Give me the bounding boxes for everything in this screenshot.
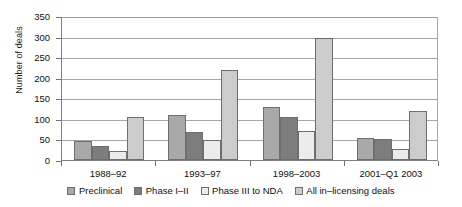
y-tick-label: 200	[4, 74, 50, 84]
legend-item-phase-i-ii[interactable]: Phase I–II	[134, 186, 188, 196]
gridline	[62, 120, 437, 121]
bar-chart: Number of deals 050100150200250300350 19…	[0, 0, 462, 207]
x-tick-label: 2001–Q1 2003	[359, 168, 422, 179]
y-tick-mark	[56, 38, 61, 39]
gridline	[62, 58, 437, 59]
y-tick-label: 50	[4, 135, 50, 145]
y-tick-label: 250	[4, 53, 50, 63]
gridline	[62, 79, 437, 80]
legend-swatch-icon	[201, 187, 209, 195]
legend-label: Phase III to NDA	[212, 186, 283, 196]
legend-swatch-icon	[67, 187, 75, 195]
bar-phase-i-ii-1998-2003	[280, 117, 298, 160]
bar-all-in-licensing-deals-1988-92	[127, 117, 145, 160]
legend-label: Preclinical	[79, 186, 122, 196]
gridline	[62, 99, 437, 100]
bar-phase-i-ii-2001-Q1-2003	[374, 139, 392, 160]
bar-all-in-licensing-deals-1998-2003	[315, 38, 333, 160]
x-tick-mark	[61, 161, 62, 166]
legend-item-all-in-licensing-deals[interactable]: All in–licensing deals	[295, 186, 395, 196]
y-tick-label: 300	[4, 33, 50, 43]
x-tick-label: 1988–92	[90, 168, 127, 179]
bar-all-in-licensing-deals-1993-97	[221, 70, 239, 161]
y-tick-mark	[56, 140, 61, 141]
legend-item-phase-iii-to-nda[interactable]: Phase III to NDA	[201, 186, 283, 196]
y-tick-mark	[56, 79, 61, 80]
bar-phase-iii-to-nda-1993-97	[203, 140, 221, 160]
bar-phase-iii-to-nda-2001-Q1-2003	[392, 149, 410, 160]
y-tick-mark	[56, 58, 61, 59]
chart-legend: PreclinicalPhase I–IIPhase III to NDAAll…	[0, 186, 462, 196]
bar-preclinical-1988-92	[74, 141, 92, 160]
x-tick-label: 1993–97	[184, 168, 221, 179]
y-tick-label: 150	[4, 94, 50, 104]
legend-item-preclinical[interactable]: Preclinical	[67, 186, 122, 196]
bar-phase-iii-to-nda-1988-92	[109, 151, 127, 160]
gridline	[62, 38, 437, 39]
bar-preclinical-2001-Q1-2003	[357, 138, 375, 160]
y-tick-label: 350	[4, 12, 50, 22]
legend-label: Phase I–II	[146, 186, 189, 196]
x-tick-label: 1998–2003	[273, 168, 321, 179]
bar-preclinical-1998-2003	[263, 107, 281, 160]
legend-label: All in–licensing deals	[306, 186, 394, 196]
x-tick-mark	[344, 161, 345, 166]
bar-all-in-licensing-deals-2001-Q1-2003	[409, 111, 427, 160]
x-tick-mark	[250, 161, 251, 166]
y-tick-mark	[56, 99, 61, 100]
legend-swatch-icon	[134, 187, 142, 195]
x-tick-mark	[155, 161, 156, 166]
bar-preclinical-1993-97	[168, 115, 186, 160]
y-tick-mark	[56, 120, 61, 121]
bar-phase-i-ii-1988-92	[92, 146, 110, 160]
plot-area	[61, 17, 438, 161]
x-tick-mark	[438, 161, 439, 166]
bar-phase-i-ii-1993-97	[186, 132, 204, 160]
y-tick-mark	[56, 17, 61, 18]
bar-phase-iii-to-nda-1998-2003	[298, 131, 316, 160]
legend-swatch-icon	[295, 187, 303, 195]
y-tick-label: 0	[4, 156, 50, 166]
y-tick-label: 100	[4, 115, 50, 125]
gridline	[62, 17, 437, 18]
